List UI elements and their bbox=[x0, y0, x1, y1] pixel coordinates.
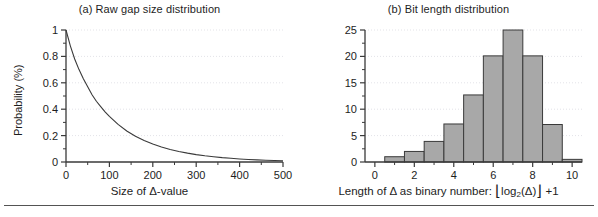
panel-b-plot: 05101520250246810 bbox=[299, 0, 598, 200]
x-tick-label: 200 bbox=[144, 169, 162, 181]
histogram-bar bbox=[483, 56, 503, 162]
x-axis-ticks: 0100200300400500 bbox=[63, 162, 292, 181]
panel-a-raw-gap-size-distribution: (a) Raw gap size distribution Probabilit… bbox=[0, 0, 299, 200]
y-tick-label: 1 bbox=[52, 24, 58, 36]
axes bbox=[66, 30, 283, 162]
histogram-bar bbox=[523, 56, 543, 162]
panel-b-x-axis-label-arg: (Δ) bbox=[521, 185, 536, 197]
panel-b-x-axis-label-prefix: Length of bbox=[338, 185, 389, 197]
y-tick-label: 20 bbox=[345, 50, 357, 62]
panel-a-plot: 00.20.40.60.810100200300400500 bbox=[0, 0, 299, 200]
figure-container: (a) Raw gap size distribution Probabilit… bbox=[0, 0, 598, 217]
histogram-bar bbox=[543, 125, 563, 162]
panel-b-x-axis-label-delta: Δ bbox=[390, 185, 397, 197]
histogram-bar bbox=[385, 157, 405, 162]
histogram-bar bbox=[424, 141, 444, 162]
y-tick-label: 0 bbox=[52, 156, 58, 168]
x-tick-label: 8 bbox=[530, 169, 536, 181]
x-tick-label: 0 bbox=[372, 169, 378, 181]
y-tick-label: 5 bbox=[351, 130, 357, 142]
data-curve bbox=[66, 30, 283, 161]
y-tick-label: 15 bbox=[345, 77, 357, 89]
bar-group bbox=[385, 30, 582, 162]
x-tick-label: 10 bbox=[566, 169, 578, 181]
histogram-bar bbox=[404, 151, 424, 162]
y-tick-label: 10 bbox=[345, 103, 357, 115]
panel-b-bit-length-distribution: (b) Bit length distribution Probability … bbox=[299, 0, 598, 200]
panel-a-x-axis-label-prefix: Size of bbox=[111, 185, 149, 197]
x-tick-label: 500 bbox=[274, 169, 292, 181]
x-tick-label: 100 bbox=[100, 169, 118, 181]
x-tick-label: 400 bbox=[230, 169, 248, 181]
x-tick-label: 2 bbox=[411, 169, 417, 181]
panel-b-x-axis-label-plus-one: +1 bbox=[542, 185, 558, 197]
y-tick-label: 25 bbox=[345, 24, 357, 36]
y-tick-label: 0.4 bbox=[43, 103, 58, 115]
y-axis-ticks: 0510152025 bbox=[345, 24, 365, 168]
y-tick-label: 0.2 bbox=[43, 130, 58, 142]
x-tick-label: 0 bbox=[63, 169, 69, 181]
y-axis-ticks: 00.20.40.60.81 bbox=[43, 24, 66, 168]
y-tick-label: 0.8 bbox=[43, 50, 58, 62]
y-tick-label: 0 bbox=[351, 156, 357, 168]
panel-b-x-axis-label: Length of Δ as binary number: ⌊log2(Δ)⌋ … bbox=[299, 185, 598, 199]
histogram-bar bbox=[503, 30, 523, 162]
grid-lines bbox=[66, 30, 283, 136]
histogram-bar bbox=[464, 95, 484, 162]
y-tick-label: 0.6 bbox=[43, 77, 58, 89]
x-tick-label: 4 bbox=[451, 169, 457, 181]
panel-b-x-axis-label-log: log bbox=[501, 185, 516, 197]
panel-b-x-axis-label-mid: as binary number: bbox=[397, 185, 495, 197]
panel-a-x-axis-label-delta: Δ bbox=[149, 185, 157, 197]
panel-a-x-axis-label-suffix: -value bbox=[157, 185, 188, 197]
histogram-bar bbox=[444, 124, 464, 162]
figure-bottom-divider bbox=[4, 205, 594, 206]
x-tick-label: 6 bbox=[490, 169, 496, 181]
panel-a-x-axis-label: Size of Δ-value bbox=[0, 185, 299, 197]
x-tick-label: 300 bbox=[187, 169, 205, 181]
x-axis-ticks: 0246810 bbox=[372, 162, 578, 181]
